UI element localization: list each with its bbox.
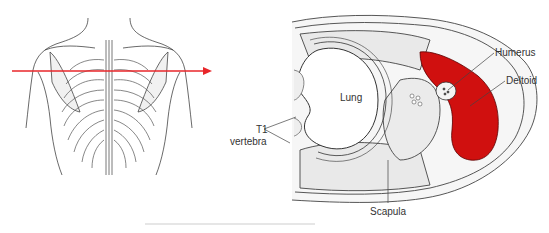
- humerus: [436, 82, 456, 100]
- spine: [106, 40, 112, 175]
- label-deltoid: Deltoid: [506, 75, 537, 86]
- label-humerus: Humerus: [495, 47, 536, 58]
- label-scapula: Scapula: [370, 206, 406, 217]
- label-t1: T1: [256, 124, 268, 135]
- label-vertebra: vertebra: [230, 136, 267, 147]
- label-lung: Lung: [340, 92, 362, 103]
- caption-area: [145, 223, 315, 225]
- anatomy-figure: [0, 0, 549, 233]
